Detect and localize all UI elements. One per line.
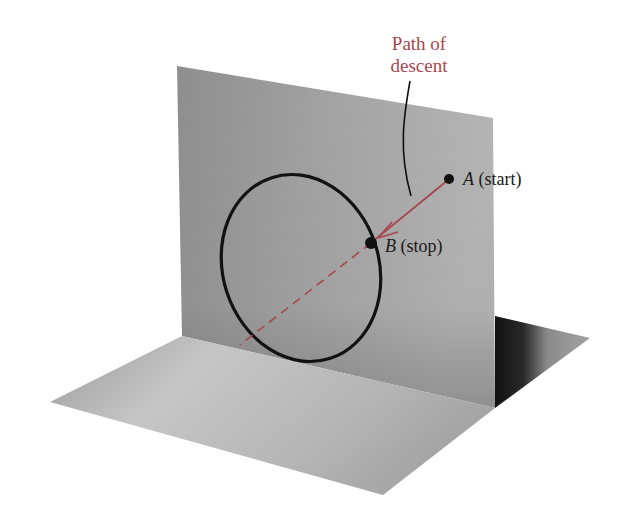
diagram-canvas [0,0,633,532]
point-a-letter: A [463,169,474,189]
annotation-line-2: descent [369,55,469,77]
point-b-label: B (stop) [385,236,443,257]
annotation-line-1: Path of [369,33,469,55]
point-b-letter: B [385,236,396,256]
horizontal-plane-back [495,316,590,408]
point-b-marker [365,237,377,249]
point-a-marker [444,174,454,184]
point-a-desc: (start) [479,169,522,189]
point-b-desc: (stop) [401,236,443,256]
point-a-label: A (start) [463,169,521,190]
path-of-descent-label: Path of descent [369,33,469,77]
